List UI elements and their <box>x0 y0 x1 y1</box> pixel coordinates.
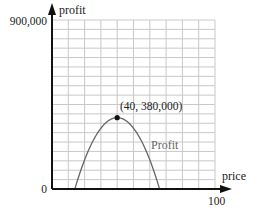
curve-label: Profit <box>151 138 179 152</box>
vertex-marker <box>115 115 120 120</box>
axes <box>48 3 232 193</box>
y-axis-label: profit <box>59 3 86 17</box>
x-tick-max-label: 100 <box>208 195 226 207</box>
y-tick-max-label: 900,000 <box>10 15 48 28</box>
x-axis-arrow-icon <box>220 185 232 193</box>
x-axis-label: price <box>222 169 246 183</box>
origin-label: 0 <box>41 183 47 195</box>
profit-chart: profit 900,000 0 100 price (40, 380,000)… <box>0 0 255 220</box>
y-axis-arrow-icon <box>48 3 56 15</box>
vertex-label: (40, 380,000) <box>120 100 182 113</box>
